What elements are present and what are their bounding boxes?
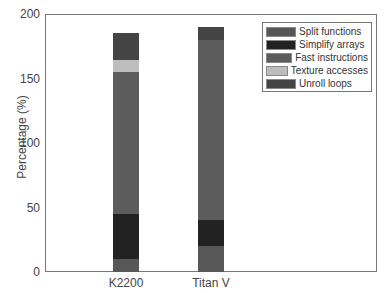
legend-label: Split functions [299, 26, 361, 37]
legend-swatch [266, 53, 292, 63]
x-label-titan-v: Titan V [181, 276, 241, 290]
legend-label: Simplify arrays [299, 39, 365, 50]
legend-item: Fast instructions [266, 51, 368, 64]
legend-item: Split functions [266, 25, 368, 38]
y-tick-200: 200 [10, 7, 40, 21]
segment-texture-accesses [113, 60, 139, 72]
legend-item: Texture accesses [266, 64, 368, 77]
legend: Split functionsSimplify arraysFast instr… [262, 22, 372, 92]
y-tick-50: 50 [10, 201, 40, 215]
segment-simplify-arrays [113, 214, 139, 259]
segment-fast-instructions [198, 40, 224, 221]
x-label-k2200: K2200 [96, 276, 156, 290]
segment-split-functions [198, 246, 224, 272]
legend-label: Texture accesses [291, 65, 368, 76]
segment-unroll-loops [113, 33, 139, 60]
y-tick-150: 150 [10, 72, 40, 86]
legend-swatch [266, 66, 288, 76]
segment-fast-instructions [113, 72, 139, 214]
y-tick-0: 0 [10, 265, 40, 279]
legend-label: Unroll loops [299, 78, 352, 89]
segment-split-functions [113, 259, 139, 272]
bar-k2200 [113, 33, 139, 272]
legend-item: Unroll loops [266, 77, 368, 90]
legend-swatch [266, 40, 296, 50]
bar-titan-v [198, 27, 224, 272]
segment-unroll-loops [198, 27, 224, 40]
segment-simplify-arrays [198, 220, 224, 246]
legend-swatch [266, 27, 296, 37]
y-axis-label: Percentage (%) [15, 87, 29, 187]
legend-item: Simplify arrays [266, 38, 368, 51]
legend-label: Fast instructions [295, 52, 368, 63]
legend-swatch [266, 79, 296, 89]
